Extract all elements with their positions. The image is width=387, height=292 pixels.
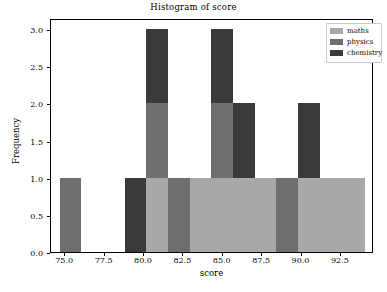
histogram-bar [276,19,298,252]
x-tick-label: 77.5 [84,256,124,265]
bar-segment-maths [211,178,233,252]
chart-title: Histogram of score [0,2,387,12]
bar-segment-chemistry [125,178,147,252]
x-axis-label: score [50,268,373,278]
histogram-figure: Histogram of score Frequency 0.00.51.01.… [0,0,387,292]
x-tick-label: 90.0 [281,256,321,265]
bar-segment-physics [211,103,233,177]
histogram-bar [60,19,82,252]
x-tick-label: 80.0 [123,256,163,265]
bar-segment-maths [298,178,320,252]
y-tick-mark [47,253,50,254]
legend: mathsphysicschemistry [326,23,382,63]
histogram-bar [146,19,168,252]
y-tick-label: 2.0 [12,100,43,109]
x-tick-mark [64,253,65,256]
x-tick-mark [301,253,302,256]
bar-segment-maths [255,178,277,252]
y-tick-label: 1.5 [12,137,43,146]
bar-segment-physics [60,178,82,252]
histogram-bar [125,19,147,252]
bar-segment-maths [146,178,168,252]
plot-area [50,19,373,253]
legend-item-maths: maths [330,26,378,36]
bar-segment-physics [276,178,298,252]
bar-segment-chemistry [298,103,320,177]
legend-swatch-maths [330,28,343,34]
x-tick-mark [340,253,341,256]
bar-segment-physics [168,178,190,252]
legend-label: physics [347,38,373,46]
legend-swatch-physics [330,39,343,45]
histogram-bar [81,19,103,252]
legend-item-physics: physics [330,37,378,47]
histogram-bar [233,19,255,252]
y-tick-label: 3.0 [12,26,43,35]
histogram-bar [298,19,320,252]
histogram-bar [211,19,233,252]
x-tick-label: 92.5 [320,256,360,265]
x-tick-mark [104,253,105,256]
legend-label: maths [347,27,369,35]
bar-segment-physics [146,103,168,177]
x-tick-label: 87.5 [241,256,281,265]
y-tick-label: 2.5 [12,63,43,72]
histogram-bar [168,19,190,252]
bar-segment-maths [320,178,365,252]
bars-layer [51,20,372,252]
bar-segment-chemistry [233,103,255,177]
x-tick-mark [182,253,183,256]
y-tick-label: 0.5 [12,211,43,220]
bar-segment-chemistry [146,29,168,103]
y-tick-label: 0.0 [12,249,43,258]
y-tick-label: 1.0 [12,174,43,183]
bar-segment-chemistry [211,29,233,103]
legend-label: chemistry [347,49,382,57]
x-tick-mark [222,253,223,256]
bar-segment-maths [190,178,212,252]
histogram-bar [255,19,277,252]
x-tick-mark [143,253,144,256]
legend-swatch-chemistry [330,50,343,56]
x-tick-label: 75.0 [44,256,84,265]
x-tick-label: 85.0 [202,256,242,265]
x-tick-label: 82.5 [162,256,202,265]
x-tick-mark [261,253,262,256]
bar-segment-maths [233,178,255,252]
histogram-bar [190,19,212,252]
legend-item-chemistry: chemistry [330,48,378,58]
